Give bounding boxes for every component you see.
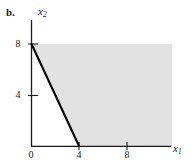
x-tick-label-8: 8 (120, 149, 134, 160)
plot-area (0, 0, 192, 167)
x-tick-label-0: 0 (24, 149, 38, 160)
y-tick-label-4: 4 (11, 89, 25, 100)
y-tick-label-8: 8 (11, 38, 25, 49)
feasible-region-shading (32, 44, 172, 146)
figure-panel-b: b. x2 x1 0 4 8 4 8 (0, 0, 192, 167)
x-tick-label-4: 4 (72, 149, 86, 160)
